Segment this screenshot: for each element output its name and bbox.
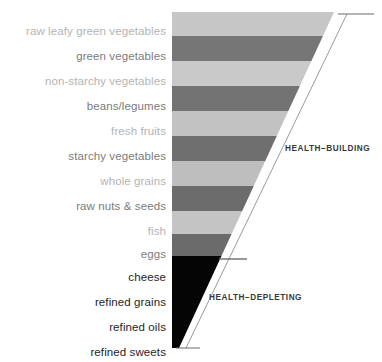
health-building-label: HEALTH−BUILDING	[285, 144, 370, 153]
band-beans-legumes	[170, 86, 340, 111]
health-depleting-label: HEALTH−DEPLETING	[209, 293, 302, 302]
band-green-vegetables	[170, 36, 340, 61]
band-whole-grains	[170, 161, 340, 186]
band-eggs	[170, 234, 340, 256]
band-fish	[170, 211, 340, 234]
nutrition-wedge-chart: raw leafy green vegetables green vegetab…	[0, 0, 382, 362]
band-raw-nuts-and-seeds	[170, 186, 340, 211]
wedge-graphic	[0, 0, 382, 362]
band-fresh-fruits	[170, 111, 340, 136]
band-raw-leafy-green-vegetables	[170, 12, 340, 36]
band-refined-group	[170, 256, 340, 349]
